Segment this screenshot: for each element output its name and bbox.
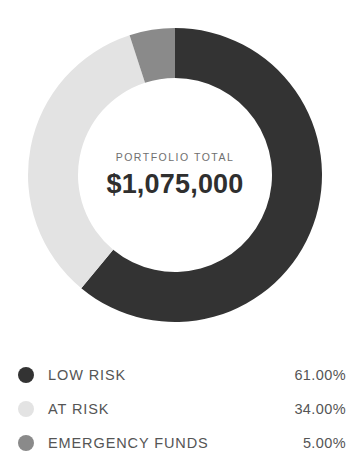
legend-label-emergency-funds: EMERGENCY FUNDS bbox=[48, 435, 209, 451]
legend-value-low-risk: 61.00% bbox=[294, 367, 346, 383]
legend-item-emergency-funds[interactable]: EMERGENCY FUNDS5.00% bbox=[18, 426, 346, 460]
legend-swatch-low-risk bbox=[18, 367, 34, 383]
legend-swatch-emergency-funds bbox=[18, 435, 34, 451]
legend-value-emergency-funds: 5.00% bbox=[303, 435, 346, 451]
legend-label-low-risk: LOW RISK bbox=[48, 367, 126, 383]
donut-chart: PORTFOLIO TOTAL $1,075,000 bbox=[27, 27, 323, 323]
donut-slice-at-risk[interactable] bbox=[28, 35, 145, 288]
legend-value-at-risk: 34.00% bbox=[294, 401, 346, 417]
legend-item-at-risk[interactable]: AT RISK34.00% bbox=[18, 392, 346, 426]
legend-item-low-risk[interactable]: LOW RISK61.00% bbox=[18, 358, 346, 392]
portfolio-allocation-widget: PORTFOLIO TOTAL $1,075,000 LOW RISK61.00… bbox=[0, 0, 364, 471]
chart-legend: LOW RISK61.00%AT RISK34.00%EMERGENCY FUN… bbox=[18, 358, 346, 460]
donut-slices bbox=[28, 28, 322, 322]
donut-chart-svg bbox=[27, 27, 323, 323]
legend-swatch-at-risk bbox=[18, 401, 34, 417]
legend-label-at-risk: AT RISK bbox=[48, 401, 109, 417]
